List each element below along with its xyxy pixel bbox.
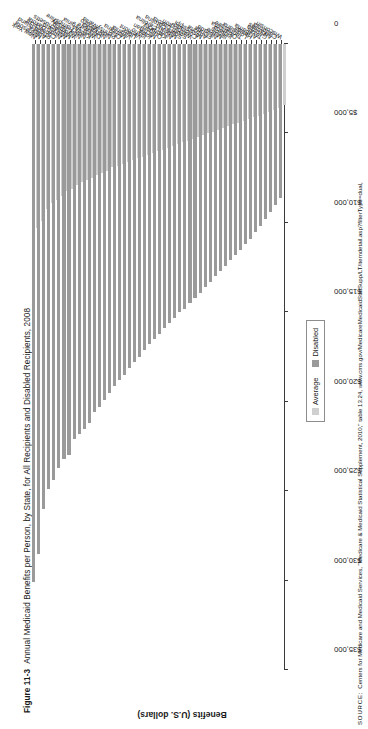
category-tick bbox=[55, 40, 56, 44]
source-text: Centers for Medicare and Medicaid Servic… bbox=[356, 182, 363, 688]
category-tick bbox=[186, 40, 187, 44]
legend-item-average: Average bbox=[311, 378, 320, 415]
category-tick bbox=[226, 40, 227, 44]
category-tick bbox=[176, 40, 177, 44]
category-tick bbox=[221, 40, 222, 44]
bar-disabled bbox=[249, 44, 252, 239]
bar-disabled bbox=[78, 44, 81, 434]
figure-number: Figure 11-3 bbox=[23, 669, 32, 713]
category-tick bbox=[65, 40, 66, 44]
figure-title: Annual Medicaid Benefits per Person, by … bbox=[23, 308, 32, 664]
bar-disabled bbox=[57, 44, 60, 468]
bar-disabled bbox=[153, 44, 156, 339]
bar-average bbox=[283, 44, 286, 105]
bar-disabled bbox=[279, 44, 282, 198]
category-tick bbox=[100, 40, 101, 44]
source-note: SOURCE: Centers for Medicare and Medicai… bbox=[352, 3, 366, 725]
category-tick bbox=[181, 40, 182, 44]
legend-item-disabled: Disabled bbox=[311, 328, 320, 367]
bar-disabled bbox=[209, 44, 212, 282]
bar-disabled bbox=[264, 44, 267, 219]
category-tick bbox=[115, 40, 116, 44]
category-tick bbox=[40, 40, 41, 44]
category-tick bbox=[90, 40, 91, 44]
bar-disabled bbox=[93, 44, 96, 412]
bar-disabled bbox=[158, 44, 161, 334]
category-tick bbox=[145, 40, 146, 44]
bar-disabled bbox=[113, 44, 116, 386]
category-tick bbox=[130, 40, 131, 44]
category-tick bbox=[211, 40, 212, 44]
category-tick bbox=[105, 40, 106, 44]
bar-disabled bbox=[118, 44, 121, 380]
bar-disabled bbox=[259, 44, 262, 226]
category-tick bbox=[216, 40, 217, 44]
category-tick bbox=[251, 40, 252, 44]
bar-disabled bbox=[269, 44, 272, 212]
category-tick bbox=[75, 40, 76, 44]
category-tick bbox=[206, 40, 207, 44]
bar-disabled bbox=[163, 44, 166, 328]
bar-disabled bbox=[214, 44, 217, 277]
category-tick bbox=[231, 40, 232, 44]
bar-disabled bbox=[83, 44, 86, 429]
category-tick bbox=[150, 40, 151, 44]
category-tick bbox=[166, 40, 167, 44]
category-tick bbox=[196, 40, 197, 44]
bar-disabled bbox=[32, 44, 35, 582]
bar-disabled bbox=[143, 44, 146, 350]
source-label: SOURCE: bbox=[356, 692, 363, 725]
legend-swatch-disabled bbox=[312, 360, 319, 367]
bar-disabled bbox=[274, 44, 277, 205]
category-tick bbox=[85, 40, 86, 44]
bar-disabled bbox=[254, 44, 257, 232]
bar-disabled bbox=[52, 44, 55, 480]
category-tick bbox=[50, 40, 51, 44]
category-tick bbox=[35, 40, 36, 44]
category-tick bbox=[155, 40, 156, 44]
bar-disabled bbox=[178, 44, 181, 312]
category-tick bbox=[201, 40, 202, 44]
bar-disabled bbox=[229, 44, 232, 260]
category-tick bbox=[191, 40, 192, 44]
category-tick bbox=[60, 40, 61, 44]
bar-disabled bbox=[133, 44, 136, 362]
legend-label-disabled: Disabled bbox=[311, 328, 320, 357]
category-tick bbox=[161, 40, 162, 44]
category-tick bbox=[125, 40, 126, 44]
category-tick bbox=[246, 40, 247, 44]
category-tick bbox=[120, 40, 121, 44]
category-tick bbox=[135, 40, 136, 44]
bar-disabled bbox=[103, 44, 106, 400]
bar-disabled bbox=[168, 44, 171, 323]
bar-disabled bbox=[148, 44, 151, 344]
category-tick bbox=[271, 40, 272, 44]
bar-disabled bbox=[204, 44, 207, 287]
figure-page: Figure 11-3 Annual Medicaid Benefits per… bbox=[0, 0, 368, 729]
bar-disabled bbox=[62, 44, 65, 459]
category-tick bbox=[80, 40, 81, 44]
category-tick bbox=[95, 40, 96, 44]
bar-disabled bbox=[123, 44, 126, 375]
bar-disabled bbox=[42, 44, 45, 509]
axis-title-benefits: Benefits (U.S. dollars) bbox=[32, 708, 332, 722]
category-tick bbox=[276, 40, 277, 44]
bar-disabled bbox=[234, 44, 237, 255]
bar-disabled bbox=[47, 44, 50, 489]
category-tick bbox=[236, 40, 237, 44]
bar-disabled bbox=[199, 44, 202, 293]
category-tick bbox=[45, 40, 46, 44]
bar-disabled bbox=[73, 44, 76, 439]
bar-disabled bbox=[37, 44, 40, 554]
category-tick bbox=[266, 40, 267, 44]
category-tick bbox=[110, 40, 111, 44]
legend-swatch-average bbox=[312, 408, 319, 415]
bar-disabled bbox=[244, 44, 247, 244]
category-tick bbox=[261, 40, 262, 44]
bar-disabled bbox=[239, 44, 242, 250]
bar-disabled bbox=[224, 44, 227, 266]
bars-container bbox=[32, 44, 284, 670]
bar-disabled bbox=[219, 44, 222, 271]
bar-disabled bbox=[128, 44, 131, 368]
category-tick bbox=[171, 40, 172, 44]
